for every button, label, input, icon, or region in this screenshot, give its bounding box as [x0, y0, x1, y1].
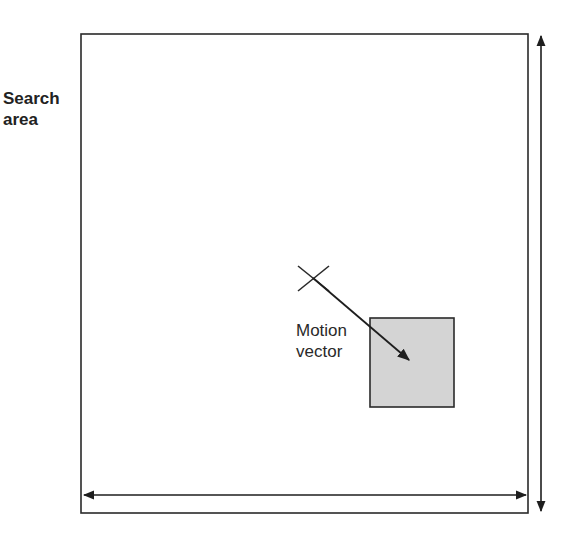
motion-vector-label: Motion vector — [296, 320, 347, 362]
search-area-label-line2: area — [3, 109, 60, 130]
search-area-box — [81, 34, 528, 513]
motion-vector-label-line1: Motion — [296, 320, 347, 341]
search-area-label: Search area — [3, 88, 60, 130]
motion-vector-label-line2: vector — [296, 341, 347, 362]
matched-block — [370, 318, 454, 407]
search-area-diagram — [0, 0, 576, 539]
search-area-label-line1: Search — [3, 88, 60, 109]
